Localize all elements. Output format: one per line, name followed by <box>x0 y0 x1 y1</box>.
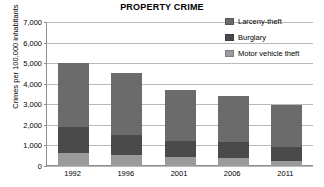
property-crime-chart: PROPERTY CRIME Crimes per 100,000 inhabi… <box>0 0 324 187</box>
stacked-bar[interactable] <box>218 96 249 166</box>
legend-item-label: Larceny-theft <box>238 17 282 26</box>
legend-swatch-burglary <box>225 34 234 41</box>
y-axis-tick-label: 4,000 <box>0 79 42 88</box>
bar-segment[interactable] <box>218 158 249 166</box>
gridline <box>47 166 313 167</box>
y-axis-tick-label: 6,000 <box>0 38 42 47</box>
legend-item[interactable]: Larceny-theft <box>225 17 299 26</box>
bar-segment[interactable] <box>58 153 89 166</box>
x-axis-tick-label: 1992 <box>46 169 99 178</box>
bar-segment[interactable] <box>271 161 302 166</box>
bar-segment[interactable] <box>111 73 142 135</box>
y-axis-tick-label: 1,000 <box>0 141 42 150</box>
legend-item[interactable]: Motor vehicle theft <box>225 49 299 58</box>
x-axis-tick-label: 2006 <box>206 169 259 178</box>
bar-slot <box>47 22 100 166</box>
bar-segment[interactable] <box>271 105 302 147</box>
legend-item[interactable]: Burglary <box>225 33 299 42</box>
stacked-bar[interactable] <box>58 63 89 166</box>
legend-item-label: Motor vehicle theft <box>238 49 299 58</box>
bar-segment[interactable] <box>218 96 249 142</box>
x-axis-tick-labels: 19921996200120062011 <box>46 169 312 178</box>
x-axis-tick-label: 1996 <box>99 169 152 178</box>
bar-segment[interactable] <box>165 141 196 157</box>
y-axis-tick-label: 5,000 <box>0 59 42 68</box>
legend-swatch-larceny-theft <box>225 18 234 25</box>
stacked-bar[interactable] <box>271 105 302 166</box>
bar-segment[interactable] <box>165 90 196 141</box>
bar-slot <box>153 22 206 166</box>
y-axis-tick-label: 0 <box>0 162 42 171</box>
bar-segment[interactable] <box>111 155 142 166</box>
legend-swatch-motor-vehicle-theft <box>225 50 234 57</box>
chart-title: PROPERTY CRIME <box>0 2 324 12</box>
legend-item-label: Burglary <box>238 33 266 42</box>
chart-legend: Larceny-theftBurglaryMotor vehicle theft <box>225 17 299 58</box>
bar-segment[interactable] <box>58 127 89 153</box>
y-axis-tick-mark <box>44 166 47 167</box>
stacked-bar[interactable] <box>165 90 196 166</box>
bar-segment[interactable] <box>271 147 302 162</box>
bar-segment[interactable] <box>111 135 142 155</box>
bar-segment[interactable] <box>58 63 89 127</box>
x-axis-tick-label: 2011 <box>259 169 312 178</box>
y-axis-tick-label: 3,000 <box>0 100 42 109</box>
y-axis-tick-label: 2,000 <box>0 120 42 129</box>
bar-slot <box>100 22 153 166</box>
y-axis-tick-label: 7,000 <box>0 18 42 27</box>
bar-segment[interactable] <box>165 157 196 166</box>
bar-segment[interactable] <box>218 142 249 157</box>
stacked-bar[interactable] <box>111 73 142 166</box>
x-axis-tick-label: 2001 <box>152 169 205 178</box>
